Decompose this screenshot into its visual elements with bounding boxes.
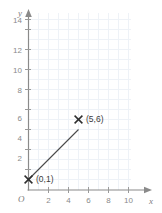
x-tick-label-2: 2 [46, 196, 51, 205]
point-label-0-1: (0,1) [36, 174, 54, 184]
y-tick-label-2: 2 [18, 154, 23, 163]
coordinate-plane-svg: 14 12 10 8 6 4 2 2 4 6 8 10 y x O (0,1) … [0, 0, 162, 213]
point-label-5-6: (5,6) [86, 114, 104, 124]
y-tick-label-8: 8 [18, 86, 23, 95]
y-tick-label-10: 10 [13, 66, 22, 75]
x-tick-label-8: 8 [106, 196, 111, 205]
y-tick-label-6: 6 [18, 114, 23, 123]
x-tick-label-10: 10 [124, 196, 133, 205]
series-line-segment [29, 130, 79, 180]
origin-label: O [18, 194, 25, 204]
coordinate-plane-figure: 14 12 10 8 6 4 2 2 4 6 8 10 y x O (0,1) … [0, 0, 162, 213]
x-tick-label-4: 4 [66, 196, 71, 205]
x-axis-arrow-icon [144, 187, 152, 194]
x-tick-label-6: 6 [86, 196, 91, 205]
grid-group [28, 13, 131, 190]
y-tick-label-12: 12 [13, 46, 22, 55]
y-axis-label: y [17, 8, 22, 18]
x-axis [28, 187, 153, 194]
y-tick-label-4: 4 [18, 134, 23, 143]
x-axis-label: x [148, 196, 153, 206]
y-axis-arrow-icon [25, 9, 32, 17]
